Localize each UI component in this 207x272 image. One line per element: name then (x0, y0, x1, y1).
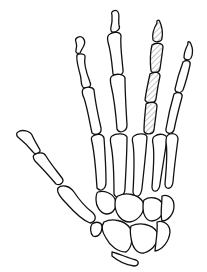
index-finger (76, 37, 102, 135)
metacarpals (91, 134, 178, 198)
hand-skeleton-diagram (0, 0, 207, 272)
carpal-bones (91, 191, 174, 253)
wrist-base (112, 252, 138, 266)
thumb (17, 131, 96, 223)
middle-finger (108, 11, 127, 132)
ring-finger-highlighted (144, 20, 163, 134)
little-finger (166, 42, 193, 134)
